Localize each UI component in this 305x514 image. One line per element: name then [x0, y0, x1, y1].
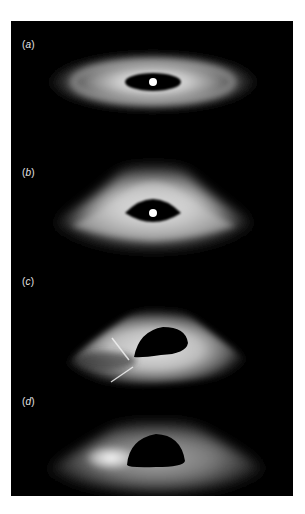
central-source-icon: [149, 209, 157, 217]
panel-b-disk: [36, 160, 271, 255]
panel-label-c: (c): [22, 276, 34, 287]
panel-label-d: (d): [22, 396, 35, 407]
panel-c-disk: [63, 306, 247, 384]
panel-d-disk: [41, 416, 271, 493]
panel-a-disk: [41, 50, 265, 114]
panel-label-b: (b): [22, 167, 35, 178]
central-source-icon: [149, 78, 157, 86]
figure-panel: (a) (b) (c) (d): [11, 21, 293, 496]
panel-label-a: (a): [22, 39, 35, 50]
disk-renderings: [11, 21, 293, 496]
